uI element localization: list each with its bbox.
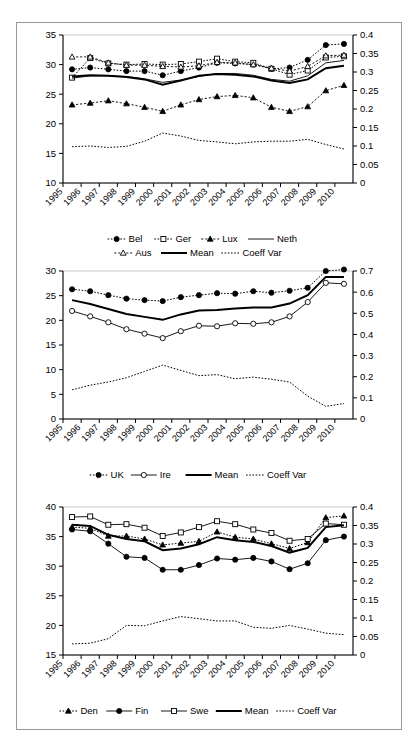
legend-item-lux[interactable]: Lux bbox=[201, 233, 238, 244]
right-axis-tick-label: 0.1 bbox=[360, 612, 373, 623]
series-mean bbox=[72, 525, 344, 553]
series-line bbox=[72, 133, 344, 149]
data-point bbox=[233, 291, 238, 296]
legend-item-label: Fin bbox=[135, 705, 148, 716]
data-point bbox=[323, 521, 328, 526]
data-point bbox=[106, 67, 111, 72]
chart-legend: UKIreMeanCoeff Var bbox=[90, 469, 307, 480]
x-axis-tick-label: 2004 bbox=[206, 658, 227, 679]
data-point bbox=[251, 321, 256, 326]
series-line bbox=[72, 44, 344, 75]
data-point bbox=[214, 291, 219, 296]
data-point bbox=[142, 331, 147, 336]
legend-item-ger[interactable]: Ger bbox=[154, 233, 191, 244]
x-axis-tick-label: 2006 bbox=[243, 186, 264, 207]
legend-item-label: Mean bbox=[245, 705, 269, 716]
legend-item-mean[interactable]: Mean bbox=[216, 705, 269, 716]
data-point bbox=[323, 268, 328, 273]
data-point bbox=[106, 320, 111, 325]
right-axis-tick-label: 0.25 bbox=[360, 557, 379, 568]
x-axis-tick-label: 2004 bbox=[206, 422, 227, 443]
legend-item-neth[interactable]: Neth bbox=[248, 233, 297, 244]
left-axis-tick-label: 25 bbox=[45, 590, 56, 601]
series-line bbox=[72, 85, 344, 111]
data-point bbox=[106, 293, 111, 298]
right-axis-tick-label: 0.3 bbox=[360, 350, 373, 361]
legend-item-label: Mean bbox=[190, 247, 214, 258]
data-point bbox=[88, 314, 93, 319]
legend-item-uk[interactable]: UK bbox=[90, 469, 125, 480]
legend-item-label: Mean bbox=[215, 469, 239, 480]
legend-item-coeff-var[interactable]: Coeff Var bbox=[221, 247, 281, 258]
left-axis-tick-label: 10 bbox=[45, 364, 56, 375]
series-line bbox=[72, 525, 344, 553]
data-point bbox=[323, 280, 328, 285]
left-axis-tick-label: 30 bbox=[45, 265, 56, 276]
legend-item-label: Bel bbox=[129, 233, 143, 244]
data-point bbox=[269, 559, 274, 564]
legend-ire-swatch-marker bbox=[141, 472, 146, 477]
chart-panel-continental: 10152025303500.050.10.150.20.250.30.350.… bbox=[17, 23, 403, 259]
data-point bbox=[142, 298, 147, 303]
left-axis-tick-label: 15 bbox=[45, 649, 56, 660]
legend-item-bel[interactable]: Bel bbox=[108, 233, 143, 244]
series-line bbox=[72, 617, 344, 644]
right-axis-tick-label: 0.15 bbox=[360, 122, 379, 133]
right-axis-tick-label: 0.35 bbox=[360, 48, 379, 59]
legend-item-coeff-var[interactable]: Coeff Var bbox=[276, 705, 336, 716]
legend-item-aus[interactable]: Aus bbox=[114, 247, 152, 258]
legend-item-mean[interactable]: Mean bbox=[161, 247, 214, 258]
data-point bbox=[196, 562, 201, 567]
right-axis-tick-label: 0.7 bbox=[360, 265, 373, 276]
data-point bbox=[105, 98, 111, 103]
right-axis-tick-label: 0 bbox=[360, 649, 365, 660]
data-point bbox=[341, 82, 347, 87]
legend-item-swe[interactable]: Swe bbox=[161, 705, 208, 716]
data-point bbox=[250, 95, 256, 100]
legend-item-coeff-var[interactable]: Coeff Var bbox=[246, 469, 306, 480]
x-axis-tick-label: 2010 bbox=[315, 186, 336, 207]
legend-item-fin[interactable]: Fin bbox=[106, 705, 148, 716]
legend-item-mean[interactable]: Mean bbox=[186, 469, 239, 480]
x-axis-tick-label: 2009 bbox=[297, 658, 318, 679]
left-axis-tick-label: 35 bbox=[45, 531, 56, 542]
data-point bbox=[251, 289, 256, 294]
right-axis-tick-label: 0.25 bbox=[360, 85, 379, 96]
data-point bbox=[251, 555, 256, 560]
data-point bbox=[341, 267, 346, 272]
x-axis-tick-label: 1996 bbox=[61, 658, 82, 679]
series-line bbox=[72, 66, 344, 85]
legend-item-label: Coeff Var bbox=[267, 469, 306, 480]
data-point bbox=[305, 299, 310, 304]
legend-item-ire[interactable]: Ire bbox=[131, 469, 171, 480]
x-axis-tick-label: 2002 bbox=[170, 186, 191, 207]
data-point bbox=[142, 525, 147, 530]
data-point bbox=[69, 287, 74, 292]
x-axis-tick-label: 1999 bbox=[116, 658, 137, 679]
right-axis-tick-label: 0.3 bbox=[360, 66, 373, 77]
data-point bbox=[124, 554, 129, 559]
left-axis-tick-label: 15 bbox=[45, 148, 56, 159]
x-axis-tick-label: 2005 bbox=[224, 186, 245, 207]
figure-frame: 10152025303500.050.10.150.20.250.30.350.… bbox=[16, 22, 402, 730]
data-point bbox=[341, 513, 347, 518]
x-axis-tick-label: 1999 bbox=[116, 422, 137, 443]
legend-item-den[interactable]: Den bbox=[59, 705, 97, 716]
legend-item-label: UK bbox=[111, 469, 125, 480]
data-point bbox=[215, 519, 220, 524]
x-axis-tick-label: 2005 bbox=[224, 422, 245, 443]
legend-item-label: Den bbox=[80, 705, 97, 716]
data-point bbox=[323, 42, 328, 47]
x-axis-tick-label: 2003 bbox=[188, 422, 209, 443]
x-axis-tick-label: 1996 bbox=[61, 422, 82, 443]
data-point bbox=[269, 290, 274, 295]
data-point bbox=[305, 285, 310, 290]
data-point bbox=[269, 531, 274, 536]
right-axis-tick-label: 0 bbox=[360, 177, 365, 188]
data-point bbox=[305, 536, 310, 541]
x-axis-tick-label: 2007 bbox=[261, 186, 282, 207]
data-point bbox=[269, 320, 274, 325]
data-point bbox=[214, 529, 220, 534]
x-axis-tick-label: 2008 bbox=[279, 422, 300, 443]
data-point bbox=[214, 556, 219, 561]
